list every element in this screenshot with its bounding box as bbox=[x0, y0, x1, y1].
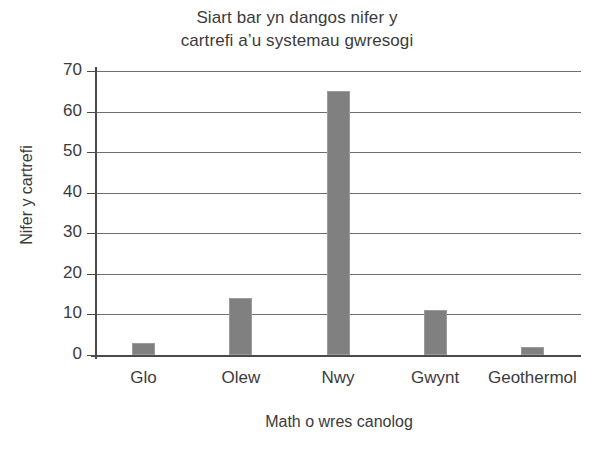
x-axis-tick-labels: GloOlewNwyGwyntGeothermol bbox=[95, 368, 581, 396]
x-axis-tick-label: Olew bbox=[221, 368, 260, 388]
bar-chart-figure: Siart bar yn dangos nifer y cartrefi a’u… bbox=[0, 0, 594, 449]
y-axis-tick-label: 10 bbox=[36, 303, 82, 323]
y-axis-tick-label: 50 bbox=[36, 141, 82, 161]
chart-title-line-1: Siart bar yn dangos nifer y bbox=[196, 8, 397, 27]
y-axis-tick-mark bbox=[87, 112, 95, 113]
x-axis-line bbox=[91, 355, 581, 357]
bars-layer bbox=[95, 71, 581, 355]
bar-glo bbox=[132, 343, 155, 355]
y-axis-tick-labels: 010203040506070 bbox=[26, 0, 82, 449]
chart-title: Siart bar yn dangos nifer y cartrefi a’u… bbox=[97, 6, 497, 52]
bar-geothermol bbox=[521, 347, 544, 355]
x-axis-tick-label: Glo bbox=[130, 368, 156, 388]
bar-gwynt bbox=[424, 310, 447, 355]
y-axis-tick-label: 20 bbox=[36, 263, 82, 283]
y-axis-tick-mark bbox=[87, 193, 95, 194]
y-axis-tick-label: 30 bbox=[36, 222, 82, 242]
y-axis-tick-mark bbox=[87, 355, 95, 356]
bar-nwy bbox=[327, 91, 350, 355]
x-axis-tick-label: Nwy bbox=[321, 368, 354, 388]
y-axis-tick-mark bbox=[87, 314, 95, 315]
x-axis-tick-label: Geothermol bbox=[488, 368, 577, 388]
bar-olew bbox=[229, 298, 252, 355]
y-axis-tick-mark bbox=[87, 71, 95, 72]
x-axis-tick-label: Gwynt bbox=[411, 368, 459, 388]
y-axis-tick-mark bbox=[87, 274, 95, 275]
y-axis-tick-mark bbox=[87, 233, 95, 234]
y-axis-tick-label: 60 bbox=[36, 101, 82, 121]
y-axis-tick-label: 70 bbox=[36, 60, 82, 80]
y-axis-tick-label: 0 bbox=[36, 344, 82, 364]
y-axis-tick-mark bbox=[87, 152, 95, 153]
x-axis-title: Math o wres canolog bbox=[97, 413, 581, 431]
y-axis-tick-label: 40 bbox=[36, 182, 82, 202]
chart-title-line-2: cartrefi a’u systemau gwresogi bbox=[181, 31, 414, 50]
